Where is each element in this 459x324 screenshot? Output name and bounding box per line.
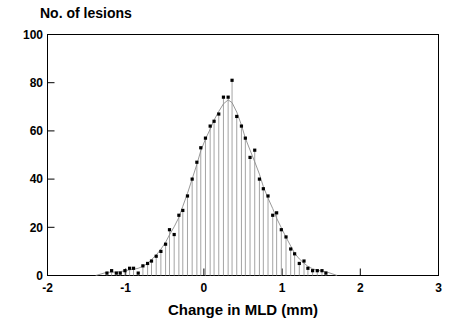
x-axis-tick-labels: -2 -1 0 1 2 3 xyxy=(42,281,442,295)
y-axis-title: No. of lesions xyxy=(40,5,132,21)
data-point xyxy=(324,271,327,274)
y-tick-label-80: 80 xyxy=(30,76,44,90)
data-point xyxy=(146,262,149,265)
stem-lines-group xyxy=(107,80,326,275)
plot-frame xyxy=(48,35,439,276)
data-point xyxy=(195,161,198,164)
y-axis-tick-labels: 100 80 60 40 20 0 xyxy=(23,28,43,283)
data-point xyxy=(235,115,238,118)
fitted-curve xyxy=(96,100,337,276)
y-tick-label-40: 40 xyxy=(30,172,44,186)
data-point xyxy=(275,211,278,214)
data-point xyxy=(186,194,189,197)
data-point xyxy=(155,255,158,258)
data-point xyxy=(204,137,207,140)
data-point xyxy=(298,262,301,265)
data-point xyxy=(181,209,184,212)
data-point xyxy=(271,214,274,217)
data-point xyxy=(284,235,287,238)
data-point xyxy=(141,264,144,267)
data-point xyxy=(123,269,126,272)
data-point xyxy=(280,228,283,231)
data-point xyxy=(311,269,314,272)
data-point xyxy=(293,252,296,255)
x-tick-label-neg1: -1 xyxy=(120,281,131,295)
data-point xyxy=(199,146,202,149)
data-point xyxy=(306,267,309,270)
data-point xyxy=(302,259,305,262)
data-point xyxy=(159,250,162,253)
data-point xyxy=(222,96,225,99)
data-point xyxy=(173,233,176,236)
data-point xyxy=(217,112,220,115)
y-tick-label-60: 60 xyxy=(30,124,44,138)
data-point xyxy=(248,156,251,159)
data-point xyxy=(119,271,122,274)
data-point xyxy=(253,149,256,152)
data-point xyxy=(244,137,247,140)
figure-container: No. of lesions 100 80 60 40 20 0 xyxy=(0,0,459,324)
data-point xyxy=(110,269,113,272)
data-point xyxy=(177,214,180,217)
y-axis-ticks xyxy=(48,35,55,276)
x-tick-label-neg2: -2 xyxy=(42,281,53,295)
data-point xyxy=(212,120,215,123)
data-point xyxy=(240,124,243,127)
data-point xyxy=(258,178,261,181)
x-axis-title: Change in MLD (mm) xyxy=(168,301,318,318)
data-point xyxy=(115,271,118,274)
data-point xyxy=(132,267,135,270)
data-point xyxy=(164,243,167,246)
data-point xyxy=(128,267,131,270)
data-point xyxy=(150,259,153,262)
y-tick-label-100: 100 xyxy=(23,28,43,42)
data-point xyxy=(209,124,212,127)
data-point xyxy=(262,187,265,190)
histogram-chart: No. of lesions 100 80 60 40 20 0 xyxy=(0,0,459,324)
y-tick-label-20: 20 xyxy=(30,221,44,235)
x-tick-label-1: 1 xyxy=(279,281,286,295)
data-point xyxy=(289,247,292,250)
data-point xyxy=(227,96,230,99)
data-point xyxy=(137,271,140,274)
x-tick-label-2: 2 xyxy=(357,281,364,295)
data-point xyxy=(320,269,323,272)
data-point xyxy=(168,228,171,231)
x-tick-label-3: 3 xyxy=(435,281,442,295)
data-point xyxy=(266,194,269,197)
x-tick-label-0: 0 xyxy=(201,281,208,295)
data-point xyxy=(230,79,233,82)
data-point xyxy=(316,269,319,272)
data-point xyxy=(191,178,194,181)
data-point xyxy=(105,271,108,274)
data-points-group xyxy=(105,79,327,275)
